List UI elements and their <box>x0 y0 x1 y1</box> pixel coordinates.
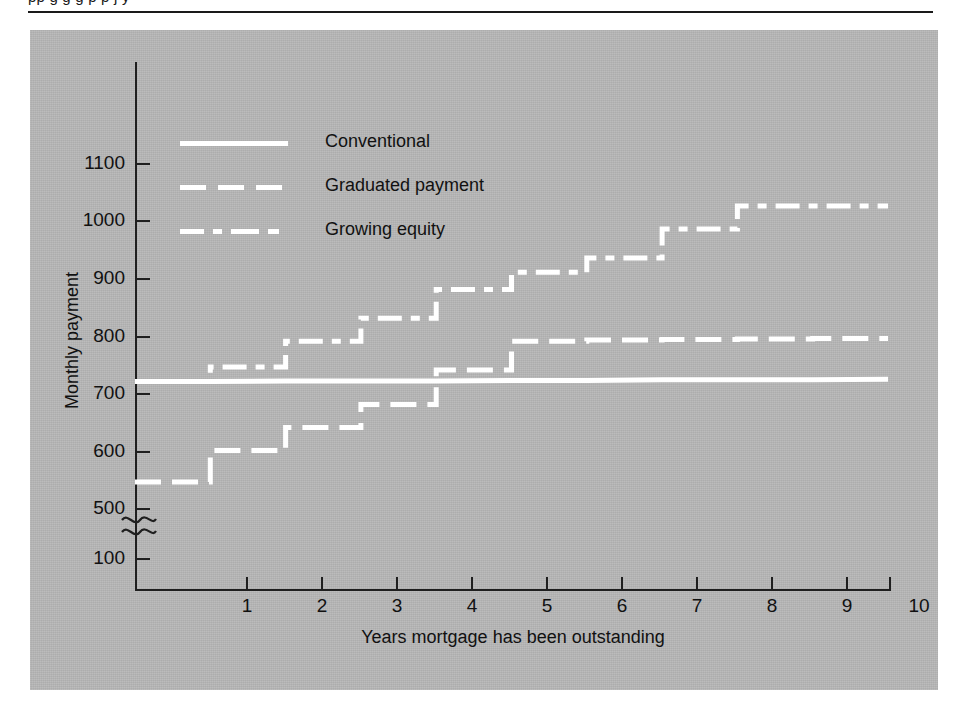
chart-series-layer <box>30 30 938 690</box>
chart-figure-panel: 1100 1000 900 800 700 600 500 100 1 2 3 <box>30 30 938 690</box>
cutoff-text-above-rule: pp g g g p p j y <box>28 0 933 10</box>
series-line-graduated-payment <box>135 338 888 482</box>
page-horizontal-rule <box>28 11 933 13</box>
series-line-conventional <box>135 379 888 381</box>
